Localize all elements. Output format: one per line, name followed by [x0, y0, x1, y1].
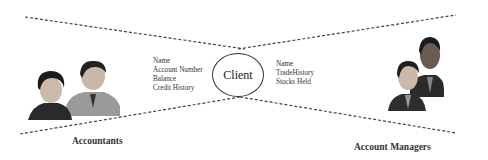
- client-entity-ellipse: Client: [212, 53, 264, 97]
- client-label: Client: [223, 68, 252, 83]
- attribute-item: Stocks Held: [276, 78, 314, 87]
- client-attributes-manager-view: Name TradeHistory Stocks Held: [276, 60, 314, 87]
- attribute-item: Credit History: [153, 84, 203, 93]
- attribute-item: Name: [153, 57, 203, 66]
- client-attributes-accountant-view: Name Account Number Balance Credit Histo…: [153, 57, 203, 93]
- top-left-dashed-line: [25, 17, 245, 49]
- attribute-item: TradeHistory: [276, 69, 314, 78]
- account-managers-label: Account Managers: [354, 142, 431, 152]
- account-managers-people-icon: [388, 33, 444, 111]
- attribute-item: Name: [276, 60, 314, 69]
- attribute-item: Account Number: [153, 66, 203, 75]
- attribute-item: Balance: [153, 75, 203, 84]
- accountants-people-icon: [26, 58, 121, 120]
- diagram-canvas: Name Account Number Balance Credit Histo…: [0, 0, 488, 160]
- accountants-label: Accountants: [72, 136, 123, 146]
